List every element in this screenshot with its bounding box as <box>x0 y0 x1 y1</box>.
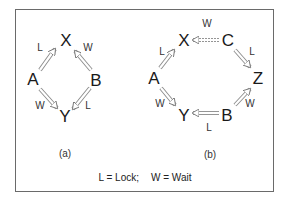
caption-b: (b) <box>204 150 216 160</box>
edge-label-a-ay: W <box>35 101 44 111</box>
edge-label-b-cx: W <box>202 19 211 29</box>
node-b-y: Y <box>178 107 189 124</box>
legend: L = Lock;W = Wait <box>99 172 192 183</box>
edge-label-a-ax: L <box>37 43 43 53</box>
edge-label-b-bz: W <box>245 99 254 109</box>
node-b-x: X <box>178 32 189 49</box>
edge-label-b-by: L <box>206 123 212 133</box>
node-b-b: B <box>221 107 232 124</box>
edge-label-b-ay: W <box>155 99 164 109</box>
node-a-a: A <box>27 71 38 88</box>
edge-label-a-bx: W <box>83 43 92 53</box>
edge-label-b-ax: L <box>159 47 165 57</box>
edge-label-b-cz: L <box>249 47 255 57</box>
caption-a: (a) <box>59 149 71 159</box>
node-a-x: X <box>60 32 71 49</box>
node-b-c: C <box>222 32 234 49</box>
legend-wait: W = Wait <box>151 172 191 183</box>
edge-label-a-by: L <box>85 101 91 111</box>
legend-lock: L = Lock; <box>99 172 140 183</box>
node-a-b: B <box>90 72 101 89</box>
node-b-a: A <box>148 70 159 87</box>
node-a-y: Y <box>59 108 70 125</box>
node-b-z: Z <box>253 70 263 87</box>
